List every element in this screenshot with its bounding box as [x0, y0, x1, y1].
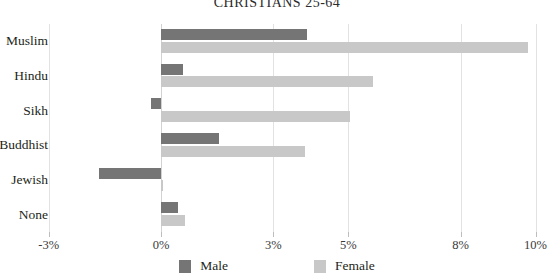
legend-label-male: Male [200, 258, 228, 274]
legend-swatch-female [314, 260, 326, 273]
bar-hindu-female [161, 76, 373, 87]
chart-row: Buddhist [0, 128, 554, 163]
bar-sikh-male [151, 98, 161, 109]
bar-none-female [161, 215, 185, 226]
chart-row: Sikh [0, 93, 554, 128]
bar-muslim-female [161, 42, 528, 53]
category-label-jewish: Jewish [0, 163, 56, 198]
x-tick-label: 0% [153, 238, 170, 253]
category-label-sikh: Sikh [0, 93, 56, 128]
chart-row: Hindu [0, 59, 554, 94]
bar-jewish-female [161, 180, 163, 191]
x-tick [49, 232, 50, 237]
legend-label-female: Female [335, 258, 375, 274]
plot-area: MuslimHinduSikhBuddhistJewishNone [0, 24, 554, 232]
bar-hindu-male [161, 64, 183, 75]
x-tick-label: 8% [452, 238, 469, 253]
x-tick-label: 3% [265, 238, 282, 253]
bar-buddhist-male [161, 133, 219, 144]
category-label-muslim: Muslim [0, 24, 56, 59]
x-tick-label: 10% [524, 238, 547, 253]
bar-none-male [161, 202, 178, 213]
x-axis: -3%0%3%5%8%10% [0, 232, 554, 254]
x-tick [461, 232, 462, 237]
chart-title: CHRISTIANS 25-64 [0, 0, 554, 11]
chart-legend: Male Female [0, 256, 554, 276]
chart-row: Muslim [0, 24, 554, 59]
bar-jewish-male [99, 168, 161, 179]
category-label-buddhist: Buddhist [0, 128, 56, 163]
chart-row: Jewish [0, 163, 554, 198]
category-label-hindu: Hindu [0, 59, 56, 94]
x-tick-label: -3% [38, 238, 59, 253]
bar-sikh-female [161, 111, 350, 122]
bar-buddhist-female [161, 146, 305, 157]
x-tick-label: 5% [340, 238, 357, 253]
legend-item-female: Female [314, 258, 375, 274]
legend-swatch-male [179, 260, 191, 273]
x-tick [348, 232, 349, 237]
chart-container: CHRISTIANS 25-64 MuslimHinduSikhBuddhist… [0, 0, 554, 276]
chart-row: None [0, 197, 554, 232]
x-tick [273, 232, 274, 237]
x-tick [161, 232, 162, 237]
legend-item-male: Male [179, 258, 228, 274]
category-label-none: None [0, 197, 56, 232]
x-tick [536, 232, 537, 237]
bar-muslim-male [161, 29, 307, 40]
